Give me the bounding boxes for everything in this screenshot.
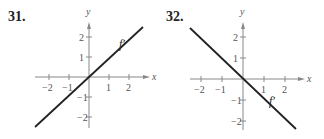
y-axis-arrow-icon bbox=[241, 22, 245, 29]
svg-text:−2: −2 bbox=[77, 112, 88, 123]
x-axis-arrow-icon bbox=[143, 75, 150, 79]
svg-text:1: 1 bbox=[106, 82, 111, 93]
graphs: −2 −1 1 2 2 1 −1 −2 x y f′ −2 −1 1 2 2 1… bbox=[0, 0, 324, 139]
svg-text:y: y bbox=[85, 6, 91, 17]
y-axis-arrow-icon bbox=[87, 22, 91, 29]
svg-text:−1: −1 bbox=[215, 84, 226, 95]
x-axis-arrow-icon bbox=[298, 77, 305, 81]
svg-text:2: 2 bbox=[79, 32, 84, 43]
curve-label-32: f′ bbox=[269, 94, 275, 108]
svg-text:−2: −2 bbox=[194, 84, 205, 95]
graph-31: −2 −1 1 2 2 1 −1 −2 x y f′ bbox=[35, 6, 157, 128]
svg-text:−2: −2 bbox=[42, 82, 53, 93]
svg-text:−2: −2 bbox=[231, 116, 242, 127]
svg-text:x: x bbox=[306, 73, 312, 84]
svg-text:2: 2 bbox=[233, 32, 238, 43]
svg-text:y: y bbox=[239, 6, 245, 17]
svg-text:−1: −1 bbox=[231, 95, 242, 106]
svg-text:x: x bbox=[151, 71, 157, 82]
svg-text:2: 2 bbox=[282, 84, 287, 95]
svg-text:1: 1 bbox=[79, 52, 84, 63]
svg-text:−1: −1 bbox=[62, 82, 73, 93]
svg-text:1: 1 bbox=[261, 84, 266, 95]
svg-text:−1: −1 bbox=[77, 92, 88, 103]
svg-text:2: 2 bbox=[126, 82, 131, 93]
curve-label-31: f′ bbox=[119, 37, 125, 51]
graph-32: −2 −1 1 2 2 1 −1 −2 x y f′ bbox=[190, 6, 312, 130]
svg-text:1: 1 bbox=[233, 53, 238, 64]
